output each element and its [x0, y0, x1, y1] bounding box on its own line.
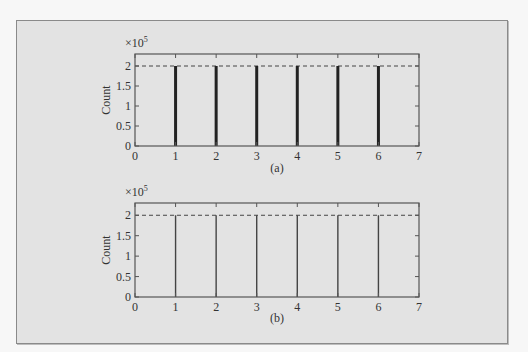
- x-tick-label: 0: [132, 300, 138, 314]
- x-tick-label: 2: [213, 149, 219, 163]
- x-tick-label: 7: [416, 300, 422, 314]
- y-tick-label: 1: [125, 99, 131, 113]
- x-tick-label: 0: [132, 149, 138, 163]
- y-multiplier: ×105: [125, 184, 148, 199]
- axes-frame: [135, 203, 419, 297]
- x-tick-label: 5: [335, 149, 341, 163]
- x-tick-label: 2: [213, 300, 219, 314]
- y-tick-label: 1.5: [116, 79, 131, 93]
- x-tick-label: 3: [254, 149, 260, 163]
- y-multiplier: ×105: [125, 35, 148, 50]
- figure-svg: 0123456700.511.52×105Count(a) 0123456700…: [0, 0, 528, 352]
- chart-caption: (b): [270, 311, 284, 325]
- y-tick-label: 0: [125, 139, 131, 153]
- y-tick-label: 0.5: [116, 270, 131, 284]
- x-tick-label: 1: [173, 149, 179, 163]
- y-tick-label: 2: [125, 59, 131, 73]
- axes-frame: [135, 54, 419, 146]
- y-axis-label: Count: [99, 235, 113, 265]
- y-axis-label: Count: [99, 85, 113, 115]
- x-tick-label: 6: [375, 300, 381, 314]
- x-tick-label: 1: [173, 300, 179, 314]
- x-tick-label: 6: [375, 149, 381, 163]
- y-tick-label: 1: [125, 249, 131, 263]
- chart-a: 0123456700.511.52×105Count(a): [99, 35, 422, 175]
- y-tick-label: 2: [125, 208, 131, 222]
- x-tick-label: 4: [294, 300, 300, 314]
- chart-caption: (a): [270, 161, 283, 175]
- x-tick-label: 4: [294, 149, 300, 163]
- chart-b: 0123456700.511.52×105Count(b): [99, 184, 422, 325]
- x-tick-label: 7: [416, 149, 422, 163]
- x-tick-label: 3: [254, 300, 260, 314]
- y-tick-label: 0: [125, 290, 131, 304]
- x-tick-label: 5: [335, 300, 341, 314]
- y-tick-label: 0.5: [116, 119, 131, 133]
- y-tick-label: 1.5: [116, 229, 131, 243]
